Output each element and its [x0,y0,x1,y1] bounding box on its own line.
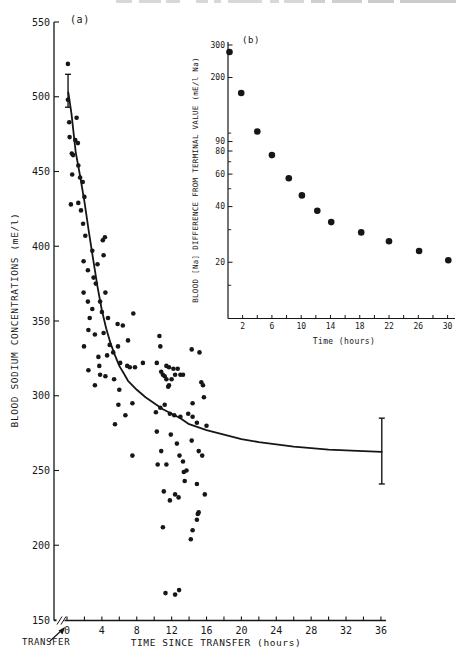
data-point [131,311,136,316]
main-x-tick-label: 0 [64,625,70,636]
transfer-annotation: TRANSFER [22,637,70,647]
data-point [94,281,99,286]
data-point [112,377,117,382]
data-point [181,459,186,464]
data-point [155,462,160,467]
inset-data-point [328,219,335,226]
data-point [159,449,164,454]
data-point [121,323,126,328]
main-y-tick-label: 250 [32,465,50,476]
main-y-tick-label: 400 [32,241,50,252]
data-point [172,413,177,418]
data-point [169,432,174,437]
data-point [69,202,74,207]
data-point [66,97,71,102]
data-point [158,344,163,349]
data-point [195,482,200,487]
data-point [168,498,173,503]
main-x-tick-label: 4 [99,625,105,636]
data-point [95,262,100,267]
main-x-axis-title: TIME SINCE TRANSFER (hours) [131,637,302,648]
data-point [97,364,102,369]
data-point [203,492,208,497]
main-x-tick-label: 8 [134,625,140,636]
data-point [169,377,174,382]
data-point [91,275,96,280]
inset-data-point [358,229,365,236]
data-point [101,331,106,336]
data-point [87,316,92,321]
inset-y-tick-label: 60 [215,170,225,179]
data-point [86,328,91,333]
data-point [70,172,75,177]
data-point [81,290,86,295]
data-point [155,429,160,434]
data-point [78,175,83,180]
data-point [103,374,108,379]
data-point [98,299,103,304]
data-point [184,468,189,473]
data-point [155,361,160,366]
data-point [79,208,84,213]
data-point [190,401,195,406]
inset-y-tick-label: 300 [211,41,226,50]
data-point [190,528,195,533]
data-point [154,410,159,415]
inset-y-tick-label: 20 [215,258,225,267]
data-point [196,449,201,454]
inset-data-point [416,248,423,255]
data-point [128,365,133,370]
main-x-tick-label: 16 [200,625,212,636]
data-point [178,414,183,419]
data-point [67,120,72,125]
data-point [90,248,95,253]
inset-x-tick-label: 18 [355,322,365,331]
data-point [82,195,87,200]
data-point [204,423,209,428]
data-point [113,422,118,427]
data-point [162,489,167,494]
main-x-tick-label: 20 [235,625,247,636]
data-point [158,405,163,410]
data-point [186,411,191,416]
inset-x-axis-title: Time (hours) [313,337,376,346]
data-point [66,62,71,67]
inset-y-tick-label: 40 [215,202,225,211]
inset-y-axis-title: BLOOD [Na] DIFFERENCE FROM TERMINAL VALU… [191,57,200,303]
data-point [141,361,146,366]
data-point [190,414,195,419]
data-point [182,479,187,484]
main-x-tick-label: 12 [166,625,178,636]
data-point [202,395,207,400]
data-point [161,525,166,530]
figure-page: 1502002503003504004505005500481216202428… [0,0,466,659]
data-point [103,290,108,295]
inset-x-tick-label: 10 [296,322,306,331]
inset-x-tick-label: 14 [326,322,336,331]
data-point [74,115,79,120]
inset-data-point [254,128,261,135]
data-point [116,402,121,407]
data-point [86,268,91,273]
data-point [168,411,173,416]
data-point [173,492,178,497]
data-point [164,377,169,382]
main-y-tick-label: 500 [32,91,50,102]
inset-data-point [269,152,276,159]
data-point [106,316,111,321]
main-x-tick-label: 36 [375,625,387,636]
data-point [101,253,106,258]
data-point [80,180,85,185]
main-y-axis-title: BLOOD SODIUM CONCENTRATIONS (mE/l) [9,213,20,428]
data-point [177,453,182,458]
data-point [133,365,138,370]
panel-b-label: (b) [242,35,260,45]
data-point [93,332,98,337]
data-point [105,353,110,358]
inset-data-point [386,238,393,245]
data-point [195,420,200,425]
data-point [81,259,86,264]
data-point [93,383,98,388]
data-point [81,222,86,227]
inset-data-point [238,90,245,97]
